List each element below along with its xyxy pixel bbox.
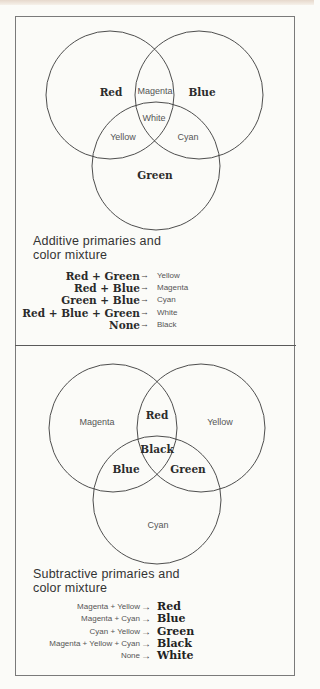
equation-rhs: Cyan xyxy=(157,294,176,306)
cyan-circle xyxy=(93,436,221,564)
label-cyan: Cyan xyxy=(177,132,198,142)
subtractive-title-line1: Subtractive primaries and xyxy=(33,567,180,581)
equation-row: None → Black xyxy=(20,319,290,331)
equation-lhs: None xyxy=(121,650,140,662)
equation-rhs: Magenta xyxy=(157,282,188,294)
equation-rhs: Blue xyxy=(157,613,185,625)
label-yellow: Yellow xyxy=(207,417,233,427)
equation-row: Green + Blue → Cyan xyxy=(20,294,290,306)
equation-row: Magenta + Yellow + Cyan → Black xyxy=(20,638,290,650)
equation-row: None → White xyxy=(20,650,290,662)
label-red: Red xyxy=(146,409,169,421)
subtractive-title-line2: color mixture xyxy=(33,581,180,595)
arrow-icon: → xyxy=(141,626,151,637)
additive-title-line1: Additive primaries and xyxy=(33,234,161,248)
subtractive-caption: Subtractive primaries and color mixture xyxy=(33,567,180,595)
arrow-icon: → xyxy=(141,638,151,649)
label-white: White xyxy=(142,113,165,123)
equation-lhs: Red + Blue + Green xyxy=(22,307,140,319)
equation-row: Red + Green → Yellow xyxy=(20,270,290,282)
equation-lhs: Magenta + Yellow + Cyan xyxy=(49,638,140,650)
arrow-icon: → xyxy=(141,601,151,612)
subtractive-venn xyxy=(49,364,265,564)
equation-lhs: Cyan + Yellow xyxy=(90,626,140,638)
additive-caption: Additive primaries and color mixture xyxy=(33,234,161,262)
equation-lhs: Red + Green xyxy=(66,270,140,282)
equation-row: Red + Blue + Green → White xyxy=(20,307,290,319)
arrow-icon: → xyxy=(140,294,149,304)
label-blue: Blue xyxy=(188,86,215,98)
equation-row: Magenta + Yellow → Red xyxy=(20,601,290,613)
arrow-icon: → xyxy=(141,650,151,661)
arrow-icon: → xyxy=(140,319,149,329)
equation-row: Magenta + Cyan → Blue xyxy=(20,613,290,625)
label-yellow: Yellow xyxy=(110,132,136,142)
equation-rhs: Black xyxy=(157,319,177,331)
arrow-icon: → xyxy=(140,307,149,317)
label-magenta: Magenta xyxy=(137,86,172,96)
label-green: Green xyxy=(170,463,206,475)
equation-lhs: Magenta + Cyan xyxy=(81,613,140,625)
equation-lhs: Green + Blue xyxy=(61,294,140,306)
equation-lhs: None xyxy=(109,319,140,331)
equation-rhs: Yellow xyxy=(157,270,180,282)
equation-lhs: Red + Blue xyxy=(74,282,140,294)
equation-row: Red + Blue → Magenta xyxy=(20,282,290,294)
label-cyan: Cyan xyxy=(147,520,168,530)
equation-rhs: White xyxy=(157,650,194,662)
arrow-icon: → xyxy=(140,282,149,292)
label-red: Red xyxy=(100,86,123,98)
label-black: Black xyxy=(140,443,173,455)
equation-row: Cyan + Yellow → Green xyxy=(20,626,290,638)
additive-venn xyxy=(46,31,263,230)
arrow-icon: → xyxy=(141,613,151,624)
additive-title-line2: color mixture xyxy=(33,248,161,262)
equation-lhs: Magenta + Yellow xyxy=(77,601,140,613)
label-blue: Blue xyxy=(112,463,139,475)
label-magenta: Magenta xyxy=(79,417,114,427)
arrow-icon: → xyxy=(140,270,149,280)
equation-rhs: White xyxy=(157,307,177,319)
label-green: Green xyxy=(137,169,173,181)
